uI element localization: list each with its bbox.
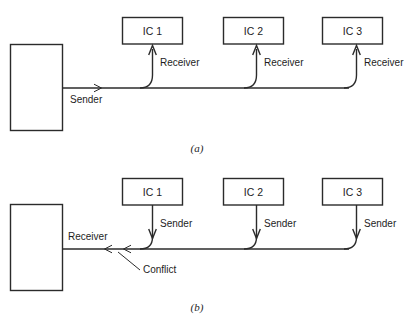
panel-b-drop-label-3: Sender <box>364 218 397 229</box>
panel-a-ic-label-1: IC 1 <box>143 25 162 37</box>
panel-b-drop-line-2 <box>244 205 257 249</box>
panel-a-caption: (a) <box>191 142 204 155</box>
panel-a-riser-line-2 <box>244 49 257 88</box>
panel-a-controller-box <box>11 45 63 131</box>
panel-a-riser-line-1 <box>140 49 153 88</box>
panel-b-drop-label-2: Sender <box>264 218 297 229</box>
panel-a-riser-label-3: Receiver <box>364 57 404 68</box>
panel-b-drop-label-1: Sender <box>160 218 193 229</box>
panel-a-ic-label-3: IC 3 <box>343 25 362 37</box>
panel-b-ic-label-2: IC 2 <box>244 186 263 198</box>
panel-b-caption: (b) <box>191 301 204 314</box>
panel-b-controller-box <box>11 205 63 291</box>
panel-b-ic-label-3: IC 3 <box>343 186 362 198</box>
panel-a-bus-label: Sender <box>70 94 103 105</box>
panel-b-bus-label: Receiver <box>68 231 108 242</box>
panel-a-ic-label-2: IC 2 <box>244 25 263 37</box>
panel-b-ic-label-1: IC 1 <box>143 186 162 198</box>
panel-a: Sender IC 1 Receiver IC 2 Receiver IC 3 … <box>11 18 405 156</box>
panel-b-conflict-label: Conflict <box>143 264 177 275</box>
panel-b-conflict-leader-line <box>118 252 140 270</box>
panel-a-riser-label-1: Receiver <box>160 57 200 68</box>
panel-b: Receiver Conflict IC 1 Sender IC 2 Sende… <box>11 179 397 315</box>
panel-b-drop-line-1 <box>140 205 153 249</box>
bus-communication-diagram: Sender IC 1 Receiver IC 2 Receiver IC 3 … <box>0 0 405 319</box>
panel-a-riser-label-2: Receiver <box>264 57 304 68</box>
panel-b-drop-line-3 <box>344 205 357 249</box>
figure-container: Sender IC 1 Receiver IC 2 Receiver IC 3 … <box>0 0 405 319</box>
panel-a-riser-line-3 <box>344 49 357 88</box>
